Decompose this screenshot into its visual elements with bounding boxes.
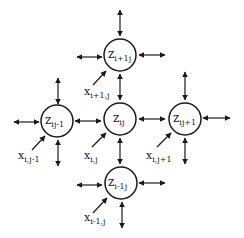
input-center-label: xi,j <box>84 149 98 164</box>
input-right-label: xi,j+1 <box>146 149 172 164</box>
input-left-label: xi,j-1 <box>18 149 40 164</box>
input-top-label: xi+1,j <box>84 85 110 100</box>
input-bottom-label: xi-1,j <box>84 211 106 226</box>
lattice-diagram: zi+1j zij-1 zij zij+1 zi-1j xi+1,j xi,j-… <box>0 0 244 238</box>
